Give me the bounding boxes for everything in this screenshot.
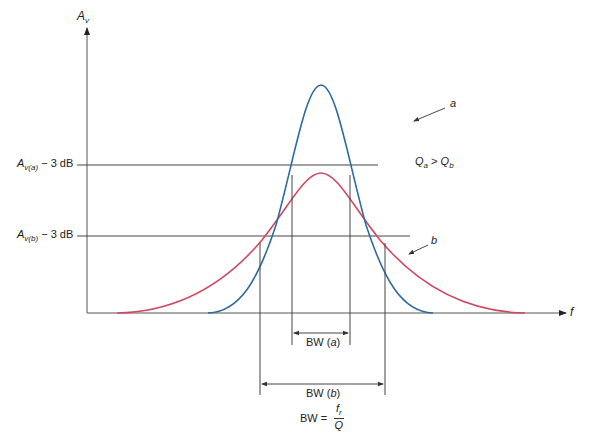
y-axis-symbol: A: [77, 9, 85, 23]
bw-a-label: BW (a): [306, 337, 340, 348]
formula-num-subscript: r: [339, 408, 342, 417]
curve-a-leader-arrow: [414, 108, 445, 121]
level-a-subscript: v(a): [24, 163, 38, 172]
level-b-suffix: − 3 dB: [38, 228, 73, 240]
level-label-b: Av(b) − 3 dB: [17, 229, 73, 243]
bw-b-suffix: ): [337, 387, 341, 399]
curve-b: [117, 173, 525, 313]
bw-b-label: BW (b): [306, 388, 340, 399]
formula-denominator: Q: [335, 419, 344, 431]
formula-numerator: fr: [334, 403, 344, 419]
y-axis-label: Av: [77, 10, 89, 25]
q-right: Q: [441, 155, 450, 167]
q-left: Q: [415, 155, 424, 167]
level-label-a: Av(a) − 3 dB: [17, 158, 73, 172]
x-axis-symbol: f: [570, 305, 573, 319]
x-axis-label: f: [570, 306, 573, 318]
bw-a-prefix: BW (: [306, 336, 330, 348]
curve-a-label: a: [450, 98, 456, 109]
q-relation: Qa > Qb: [415, 156, 454, 170]
level-b-subscript: v(b): [24, 234, 38, 243]
q-operator: >: [428, 155, 441, 167]
bw-formula-lhs: BW =: [300, 413, 327, 424]
q-right-sub: b: [449, 161, 453, 170]
level-a-suffix: − 3 dB: [38, 157, 73, 169]
curve-a: [208, 85, 433, 313]
bw-formula-fraction: fr Q: [334, 403, 344, 431]
y-axis-subscript: v: [85, 16, 89, 25]
bw-a-suffix: ): [337, 336, 341, 348]
bw-b-prefix: BW (: [306, 387, 330, 399]
curve-b-leader-arrow: [409, 245, 428, 254]
curve-b-label: b: [431, 235, 437, 246]
resonance-diagram: [0, 0, 589, 443]
